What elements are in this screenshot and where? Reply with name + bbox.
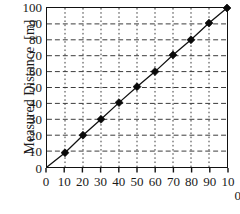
chart-figure: Measured Distance [m] 010203040506070809… <box>0 0 240 214</box>
x-axis-tick-label: 100 <box>213 175 240 203</box>
x-axis-tick-labels: 0102030405060708090100 <box>0 0 240 214</box>
